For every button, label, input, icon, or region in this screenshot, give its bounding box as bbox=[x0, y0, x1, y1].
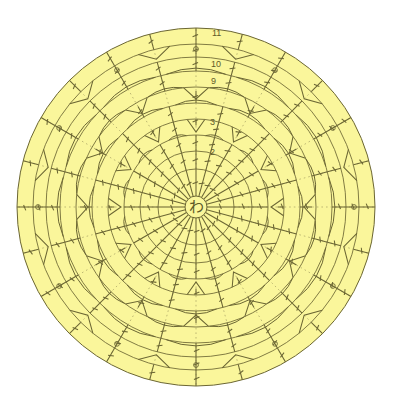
magic-ring-symbol: わ bbox=[189, 198, 204, 216]
round-label-2: 2 bbox=[210, 147, 215, 157]
chart-root: わ 1110932 bbox=[0, 0, 393, 418]
round-label-10: 10 bbox=[211, 59, 221, 69]
magic-ring-group: わ bbox=[185, 196, 207, 218]
round-label-3: 3 bbox=[210, 117, 215, 127]
crochet-chart-canvas: わ 1110932 bbox=[0, 0, 393, 418]
round-label-11: 11 bbox=[212, 28, 221, 38]
round-label-9: 9 bbox=[211, 76, 216, 86]
